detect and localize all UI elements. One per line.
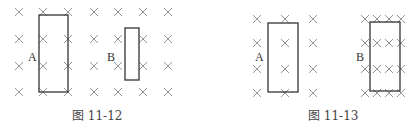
loop-a-fig12 [39, 15, 68, 92]
loop-label-b-fig13: B [356, 51, 364, 63]
field-cross-icon [253, 15, 261, 23]
field-cross-icon [397, 39, 405, 47]
field-cross-icon [90, 62, 98, 70]
loop-a-fig13 [268, 23, 298, 92]
field-cross-icon [114, 8, 122, 16]
field-cross-icon [385, 89, 393, 97]
field-cross-icon [114, 88, 122, 96]
field-cross-icon [373, 89, 381, 97]
field-cross-icon [139, 35, 147, 43]
field-cross-icon [253, 89, 261, 97]
field-cross-icon [385, 65, 393, 73]
field-cross-icon [253, 39, 261, 47]
field-cross-icon [309, 15, 317, 23]
field-cross-icon [309, 89, 317, 97]
field-cross-icon [139, 88, 147, 96]
field-cross-icon [281, 15, 289, 23]
field-cross-icon [15, 62, 23, 70]
field-cross-icon [373, 39, 381, 47]
field-cross-icon [309, 39, 317, 47]
field-cross-icon [281, 39, 289, 47]
loop-label-b-fig12: B [107, 51, 115, 63]
field-cross-icon [164, 88, 172, 96]
loop-b-fig12 [125, 28, 139, 80]
field-cross-icon [397, 89, 405, 97]
caption-fig-11-12: 图 11-12 [72, 110, 122, 122]
field-cross-icon [281, 89, 289, 97]
field-cross-icon [139, 8, 147, 16]
field-cross-icon [15, 35, 23, 43]
field-cross-icon [253, 65, 261, 73]
field-cross-icon [139, 62, 147, 70]
field-cross-icon [361, 15, 369, 23]
field-cross-icon [39, 35, 47, 43]
field-cross-icon [164, 62, 172, 70]
figure-canvas: A B 图 11-12 A B 图 11-13 [0, 0, 417, 132]
field-cross-icon [385, 39, 393, 47]
loop-b-fig13 [370, 22, 400, 91]
field-cross-icon [90, 35, 98, 43]
field-cross-icon [309, 65, 317, 73]
field-cross-icon [361, 39, 369, 47]
field-cross-icon [397, 65, 405, 73]
field-cross-icon [164, 35, 172, 43]
field-cross-icon [114, 35, 122, 43]
field-cross-icon [90, 88, 98, 96]
field-cross-icon [90, 8, 98, 16]
field-cross-icon [15, 88, 23, 96]
field-cross-icon [164, 8, 172, 16]
field-cross-icon [281, 65, 289, 73]
field-cross-icon [39, 62, 47, 70]
field-cross-icon [361, 65, 369, 73]
field-cross-icon [15, 8, 23, 16]
caption-fig-11-13: 图 11-13 [308, 110, 358, 122]
loop-label-a-fig13: A [255, 51, 264, 63]
field-cross-icon [114, 62, 122, 70]
loop-label-a-fig12: A [28, 51, 37, 63]
field-cross-icon [373, 65, 381, 73]
field-cross-icon [361, 89, 369, 97]
